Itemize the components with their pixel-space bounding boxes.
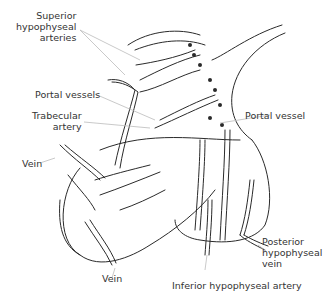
label-portal-vessel: Portal vessel bbox=[245, 110, 305, 121]
label-vein-bottom: Vein bbox=[102, 273, 122, 284]
label-posterior-hypophyseal-vein: Posterior hypophyseal vein bbox=[262, 236, 322, 269]
label-superior-hypophyseal-arteries: Superior hypophyseal arteries bbox=[16, 10, 76, 43]
label-vein-left: Vein bbox=[22, 158, 42, 169]
diagram: Superior hypophyseal arteries Portal ves… bbox=[0, 0, 333, 299]
label-portal-vessels: Portal vessels bbox=[35, 89, 100, 100]
label-inferior-hypophyseal-artery: Inferior hypophyseal artery bbox=[172, 280, 302, 291]
label-trabecular-artery: Trabecular artery bbox=[32, 110, 82, 132]
